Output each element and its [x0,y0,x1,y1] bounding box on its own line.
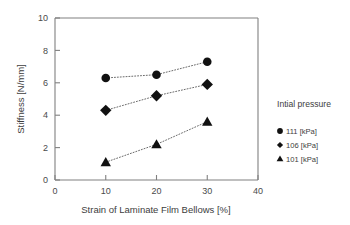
series-106-kpa [100,79,213,116]
legend-title: Intial pressure [277,99,331,109]
data-point-diamond [202,79,213,90]
y-tick-label-4: 4 [43,110,48,120]
y-axis-title: Stiffness [N/mm] [15,64,26,134]
y-tick-label-8: 8 [43,46,48,56]
y-tick-label-2: 2 [43,143,48,153]
y-tick-label-10: 10 [38,13,48,23]
data-point-diamond [151,90,162,101]
x-tick-label-40: 40 [253,186,263,196]
chart-figure: 0 2 4 6 8 10 0 10 20 30 40 Strain of Lam… [0,0,350,225]
legend-label-101-kpa: 101 [kPa] [286,155,318,164]
data-point-triangle [202,116,212,125]
stiffness-vs-strain-chart: 0 2 4 6 8 10 0 10 20 30 40 Strain of Lam… [0,0,350,225]
x-tick-label-20: 20 [151,186,161,196]
data-point-triangle [101,157,111,166]
diamond-marker-icon [277,142,283,148]
legend-item-101-kpa[interactable]: 101 [kPa] [277,155,318,164]
x-tick-label-0: 0 [52,186,57,196]
x-axis-title: Strain of Laminate Film Bellows [%] [81,204,230,215]
legend-item-106-kpa[interactable]: 106 [kPa] [277,141,318,150]
y-tick-label-0: 0 [43,175,48,185]
data-point-diamond [100,105,111,116]
series-111-kpa [101,57,211,82]
legend-item-111-kpa[interactable]: 111 [kPa] [277,127,317,136]
y-tick-label-6: 6 [43,78,48,88]
data-point-circle [203,57,212,66]
data-point-circle [152,70,161,79]
triangle-marker-icon [277,156,284,162]
circle-marker-icon [277,128,283,134]
x-tick-label-10: 10 [101,186,111,196]
chart-legend: Intial pressure 111 [kPa] 106 [kPa] 101 … [277,99,332,164]
legend-label-111-kpa: 111 [kPa] [286,127,317,136]
data-point-triangle [151,139,161,148]
legend-label-106-kpa: 106 [kPa] [286,141,318,150]
x-axis-ticks: 0 10 20 30 40 [52,175,263,196]
y-axis-ticks: 0 2 4 6 8 10 [38,13,60,185]
series-101-kpa [101,116,213,166]
data-point-circle [101,74,110,83]
x-tick-label-30: 30 [202,186,212,196]
